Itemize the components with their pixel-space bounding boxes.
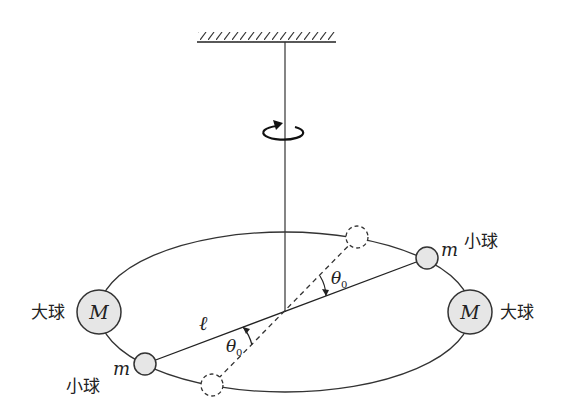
rod — [145, 258, 427, 364]
small-ball-initial-upper — [346, 226, 368, 248]
small-ball-upper-label: 小球 — [464, 231, 498, 251]
big-mass-label-left: M — [88, 301, 109, 323]
svg-text:θ: θ — [226, 336, 236, 356]
small-ball-lower-label: 小球 — [66, 376, 100, 396]
ceiling — [197, 32, 336, 42]
rod-length-label: ℓ — [199, 311, 208, 335]
small-mass-label-lower: m — [113, 358, 130, 379]
angle-arc-lower — [243, 327, 252, 345]
small-ball-upper — [416, 247, 438, 269]
angle-arc-upper — [320, 276, 329, 296]
big-ball-right-label: 大球 — [500, 302, 534, 322]
small-ball-initial-lower — [201, 374, 223, 396]
torsion-balance-diagram: M M 大球 大球 m 小球 m 小球 ℓ θ 0 θ 0 — [0, 0, 563, 415]
angle-label-upper: θ 0 — [331, 268, 347, 290]
big-ball-left-label: 大球 — [31, 302, 65, 322]
big-mass-label-right: M — [459, 301, 480, 323]
small-ball-lower — [134, 353, 156, 375]
svg-text:θ: θ — [331, 268, 341, 288]
small-mass-label-upper: m — [441, 239, 458, 260]
svg-text:0: 0 — [341, 279, 347, 290]
angle-label-lower: θ 0 — [226, 336, 242, 358]
rotation-arrow-icon — [263, 120, 303, 140]
svg-text:0: 0 — [236, 347, 242, 358]
